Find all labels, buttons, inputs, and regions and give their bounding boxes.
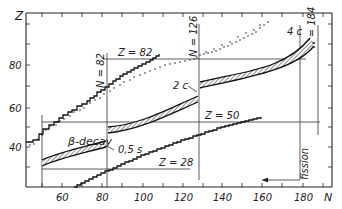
y-axis-label: Z bbox=[14, 9, 24, 23]
band-2c bbox=[108, 96, 198, 133]
x-tick-140: 140 bbox=[213, 192, 232, 203]
y-tick-60: 60 bbox=[9, 103, 22, 114]
x-tick-80: 80 bbox=[96, 192, 109, 203]
label-n82: N = 82 bbox=[95, 53, 106, 88]
label-4c: 4 c bbox=[287, 26, 303, 37]
y-tick-40: 40 bbox=[9, 142, 22, 153]
label-2c: 2 c bbox=[173, 80, 189, 91]
neutron-staircase bbox=[74, 117, 261, 187]
nuclide-chart: Z N 80 60 40 60 80 100 120 140 160 180 Z… bbox=[0, 0, 342, 209]
beta-stability-staircase bbox=[26, 54, 159, 142]
x-tick-180: 180 bbox=[294, 192, 313, 203]
x-tick-120: 120 bbox=[174, 192, 193, 203]
label-half-life: 0,5 s bbox=[118, 144, 142, 155]
label-beta-decay: β-decay bbox=[67, 135, 113, 148]
x-tick-160: 160 bbox=[253, 192, 272, 203]
y-tick-80: 80 bbox=[9, 60, 22, 71]
x-tick-60: 60 bbox=[56, 192, 69, 203]
x-tick-100: 100 bbox=[134, 192, 153, 203]
band-4c bbox=[200, 38, 314, 88]
x-axis-label: N bbox=[324, 191, 332, 204]
label-n126: N = 126 bbox=[188, 16, 199, 57]
label-fission: fission bbox=[299, 148, 310, 180]
label-z82: Z = 82 bbox=[117, 47, 152, 58]
label-z28: Z = 28 bbox=[158, 157, 193, 168]
fission-arrow bbox=[262, 178, 300, 183]
stable-nuclei-dots bbox=[29, 21, 269, 146]
label-z50: Z = 50 bbox=[204, 110, 239, 121]
